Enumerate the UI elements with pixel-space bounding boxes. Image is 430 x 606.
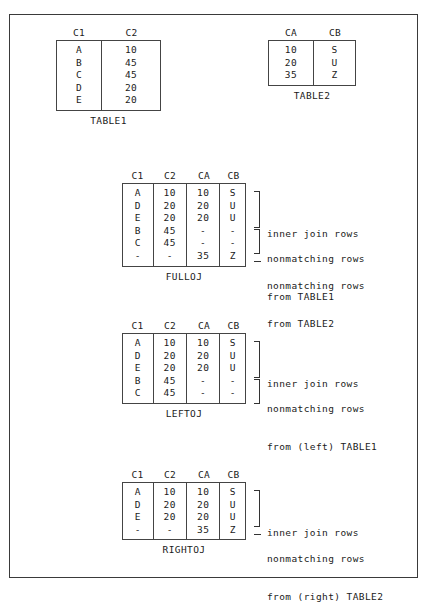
- leftoj-header-ca: CA: [187, 318, 221, 333]
- rightoj-cell: S: [220, 486, 245, 499]
- annotation-line: nonmatching rows: [267, 280, 365, 293]
- fulloj-cell: 20: [154, 200, 186, 213]
- rightoj-cell: 20: [187, 511, 219, 524]
- table1-cell: B: [57, 57, 101, 70]
- leftoj-cell: A: [123, 337, 153, 350]
- source-table-table1: C1 C2 A B C D E 10 45 45 20 20 TABLE1: [56, 25, 161, 126]
- fulloj-column-ca: 10 20 20 - - 35: [187, 184, 220, 266]
- leftoj-column-ca: 10 20 20 - -: [187, 334, 220, 403]
- leftoj-cell: B: [123, 375, 153, 388]
- table1-column-c2: 10 45 45 20 20: [102, 41, 160, 110]
- fulloj-cell: 20: [187, 212, 219, 225]
- bracket-icon: [254, 341, 260, 378]
- join-table-rightoj: C1 C2 CA CB A D E - 10 20 20 - 10 20 20 …: [122, 467, 246, 555]
- rightoj-cell: 10: [154, 486, 186, 499]
- fulloj-cell: -: [220, 225, 245, 238]
- rightoj-grid: A D E - 10 20 20 - 10 20 20 35 S U U Z: [122, 482, 246, 540]
- leftoj-cell: -: [220, 387, 245, 400]
- fulloj-cell: 10: [187, 187, 219, 200]
- fulloj-cell: 20: [187, 200, 219, 213]
- rightoj-cell: 10: [187, 486, 219, 499]
- table2-header-cb: CB: [314, 25, 356, 40]
- rightoj-cell: U: [220, 511, 245, 524]
- leftoj-grid: A D E B C 10 20 20 45 45 10 20 20 - -: [122, 333, 246, 404]
- table1-caption: TABLE1: [56, 115, 161, 126]
- table1-cell: 20: [102, 94, 160, 107]
- fulloj-cell: S: [220, 187, 245, 200]
- rightoj-header-c2: C2: [153, 467, 187, 482]
- dash-icon: [254, 534, 261, 535]
- table1-column-c1: A B C D E: [57, 41, 102, 110]
- table2-column-cb: S U Z: [314, 41, 355, 85]
- table2-header-ca: CA: [268, 25, 314, 40]
- bracket-icon: [254, 191, 260, 228]
- bracket-icon: [254, 379, 260, 404]
- fulloj-cell: A: [123, 187, 153, 200]
- rightoj-column-c1: A D E -: [123, 483, 154, 539]
- annotation-line: from (left) TABLE1: [267, 441, 377, 454]
- leftoj-cell: 20: [154, 362, 186, 375]
- rightoj-cell: 20: [154, 511, 186, 524]
- leftoj-cell: 10: [154, 337, 186, 350]
- rightoj-column-ca: 10 20 20 35: [187, 483, 220, 539]
- fulloj-header-c2: C2: [153, 168, 187, 183]
- table1-cell: E: [57, 94, 101, 107]
- annotation-line: from TABLE2: [267, 318, 365, 331]
- rightoj-cell: 20: [187, 499, 219, 512]
- leftoj-cell: U: [220, 350, 245, 363]
- rightoj-caption: RIGHTOJ: [122, 544, 246, 555]
- leftoj-column-cb: S U U - -: [220, 334, 245, 403]
- fulloj-header-c1: C1: [122, 168, 153, 183]
- table2-grid: 10 20 35 S U Z: [268, 40, 356, 86]
- rightoj-annotation-nonmatching-right: nonmatching rows from (right) TABLE2: [254, 528, 278, 578]
- table1-cell: A: [57, 44, 101, 57]
- table2-column-headers: CA CB: [268, 25, 356, 40]
- table1-cell: C: [57, 69, 101, 82]
- table1-grid: A B C D E 10 45 45 20 20: [56, 40, 161, 111]
- fulloj-cell: -: [123, 250, 153, 263]
- fulloj-cell: 20: [154, 212, 186, 225]
- dash-icon: [254, 261, 261, 262]
- fulloj-cell: -: [220, 237, 245, 250]
- table2-caption: TABLE2: [268, 90, 356, 101]
- rightoj-cell: -: [123, 524, 153, 537]
- fulloj-cell: 35: [187, 250, 219, 263]
- leftoj-cell: -: [220, 375, 245, 388]
- rightoj-cell: -: [154, 524, 186, 537]
- join-table-fulloj: C1 C2 CA CB A D E B C - 10 20 20 45 45 -: [122, 168, 246, 282]
- annotation-line: nonmatching rows: [267, 553, 383, 566]
- leftoj-cell: E: [123, 362, 153, 375]
- leftoj-cell: 10: [187, 337, 219, 350]
- leftoj-column-c2: 10 20 20 45 45: [154, 334, 187, 403]
- leftoj-cell: U: [220, 362, 245, 375]
- rightoj-cell: E: [123, 511, 153, 524]
- rightoj-header-ca: CA: [187, 467, 221, 482]
- table1-header-c1: C1: [56, 25, 102, 40]
- leftoj-cell: 20: [187, 362, 219, 375]
- table1-header-c2: C2: [102, 25, 161, 40]
- fulloj-cell: 10: [154, 187, 186, 200]
- rightoj-cell: D: [123, 499, 153, 512]
- rightoj-column-headers: C1 C2 CA CB: [122, 467, 246, 482]
- table2-cell: U: [314, 57, 355, 70]
- fulloj-column-cb: S U U - - Z: [220, 184, 245, 266]
- fulloj-cell: B: [123, 225, 153, 238]
- source-table-table2: CA CB 10 20 35 S U Z TABLE2: [268, 25, 356, 101]
- leftoj-cell: -: [187, 375, 219, 388]
- leftoj-cell: 20: [154, 350, 186, 363]
- table2-cell: 20: [269, 57, 313, 70]
- rightoj-cell: A: [123, 486, 153, 499]
- annotation-line: nonmatching rows: [267, 403, 377, 416]
- fulloj-cell: 45: [154, 225, 186, 238]
- table2-cell: 35: [269, 69, 313, 82]
- figure-frame: C1 C2 A B C D E 10 45 45 20 20 TABLE1 CA: [9, 14, 418, 578]
- fulloj-cell: -: [187, 237, 219, 250]
- fulloj-header-ca: CA: [187, 168, 221, 183]
- annotation-line: from (right) TABLE2: [267, 591, 383, 604]
- fulloj-cell: U: [220, 212, 245, 225]
- fulloj-column-c1: A D E B C -: [123, 184, 154, 266]
- fulloj-grid: A D E B C - 10 20 20 45 45 - 10 20 20 - …: [122, 183, 246, 267]
- leftoj-column-headers: C1 C2 CA CB: [122, 318, 246, 333]
- fulloj-header-cb: CB: [221, 168, 246, 183]
- fulloj-cell: D: [123, 200, 153, 213]
